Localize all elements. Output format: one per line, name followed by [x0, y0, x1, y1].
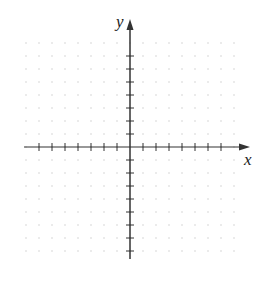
coordinate-plane: [0, 0, 263, 283]
y-axis-label: y: [116, 13, 124, 30]
axes: [24, 19, 250, 259]
x-axis-label: x: [244, 151, 252, 168]
y-axis-arrow-icon: [127, 19, 134, 30]
